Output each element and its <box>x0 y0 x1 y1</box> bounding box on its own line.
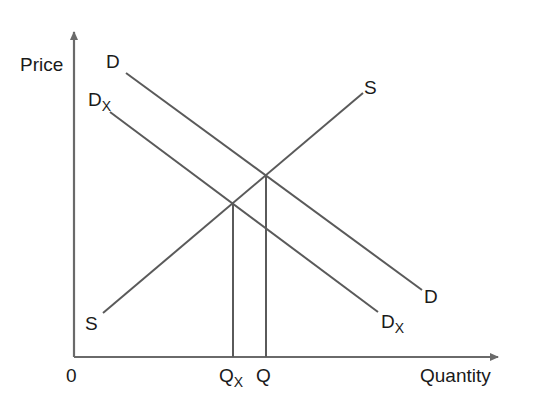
qx-label: QX <box>219 365 244 390</box>
supply-label-end: S <box>364 77 377 98</box>
origin-label: 0 <box>66 365 77 386</box>
supply-label-start: S <box>85 313 98 334</box>
supply-demand-diagram: Price Quantity 0 S S D D DX DX QX Q <box>0 0 533 407</box>
demand-curve-shifted <box>110 112 378 312</box>
demand-shifted-label-end: DX <box>381 311 405 336</box>
demand-label-end: D <box>424 286 438 307</box>
demand-label-start: D <box>106 51 120 72</box>
x-axis-label: Quantity <box>420 365 491 386</box>
y-axis-label: Price <box>20 54 63 75</box>
demand-shifted-label-start: DX <box>88 89 112 114</box>
demand-curve <box>126 73 422 290</box>
q-label: Q <box>256 365 271 386</box>
